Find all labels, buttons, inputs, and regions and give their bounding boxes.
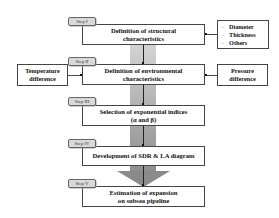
step-3-label-line2: (α and β) [100,116,188,124]
pressure-label-line1: Pressure [229,67,255,75]
bullet-dash: - [222,23,224,31]
structural-inputs-arrow-icon [205,33,207,35]
connector-line-2-3 [143,85,144,105]
structural-input-item: - Others [222,39,247,47]
step-3-tag: Step III [68,97,96,106]
bullet-dash: - [222,39,224,47]
structural-input-item: - Thickness [222,31,256,39]
step-2-tag: Step II [68,57,96,66]
structural-input-label: Thickness [229,31,255,39]
step-1-label-line2: characteristics [111,35,176,43]
temperature-input-box: Temperature difference [17,64,68,86]
process-flow-arrowhead-icon [117,171,170,187]
step-3-label-line1: Selection of exponential indices [100,108,188,116]
step-1-label-line1: Definition of structural [111,27,176,35]
temperature-label-line1: Temperature [25,67,59,75]
pressure-label-line2: difference [229,75,255,83]
connector-line-1-2 [143,44,144,64]
step-3-box: Selection of exponential indices (α and … [82,105,205,126]
temperature-label-line2: difference [25,75,59,83]
structural-input-label: Diameter [229,23,254,31]
step-1-tag: Step I [68,17,96,26]
structural-input-label: Others [229,39,247,47]
step-5-label-line1: Estimation of expansion [110,189,178,197]
step-5-label-line2: on subsea pipeline [110,197,178,205]
step-5-tag: Step V [68,179,96,188]
connector-line-3-4 [143,126,144,146]
step-4-label: Development of SDR & LA diagram [92,152,194,160]
pressure-input-box: Pressure difference [217,64,268,86]
step-2-box: Definition of environmental characterist… [82,64,205,85]
step-1-box: Definition of structural characteristics [82,24,205,45]
pressure-arrow-icon [205,74,207,76]
step-2-label-line2: characteristics [105,75,183,83]
step-4-box: Development of SDR & LA diagram [82,146,205,166]
bullet-dash: - [222,31,224,39]
structural-inputs-box: - Diameter - Thickness - Others [217,20,269,49]
connector-line-4-5 [143,166,144,186]
temperature-arrow-icon [80,74,82,76]
step-5-box: Estimation of expansion on subsea pipeli… [82,186,205,207]
step-2-label-line1: Definition of environmental [105,67,183,75]
step-4-tag: Step IV [68,139,96,148]
structural-input-item: - Diameter [222,23,254,31]
